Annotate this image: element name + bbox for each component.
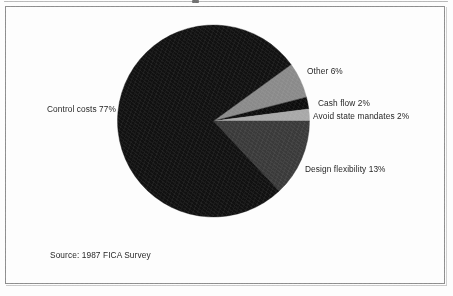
slice-label-cash-flow: Cash flow 2% (318, 98, 370, 108)
slice-label-other: Other 6% (307, 66, 343, 76)
pie-slice-group (118, 25, 310, 217)
slice-label-avoid-state-mandates: Avoid state mandates 2% (313, 111, 409, 121)
slice-label-control-costs: Control costs 77% (47, 104, 116, 114)
slice-label-design-flexibility: Design flexibility 13% (305, 164, 386, 174)
pie-chart-figure: Control costs 77% Other 6% Cash flow 2% … (0, 0, 453, 296)
source-note: Source: 1987 FICA Survey (50, 250, 151, 260)
